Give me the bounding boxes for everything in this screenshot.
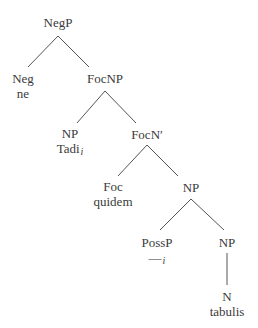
node-word: tabulis xyxy=(210,304,245,319)
coindex: i xyxy=(163,255,166,266)
edge-np-np xyxy=(191,199,224,230)
edge-focnp-focnbar xyxy=(105,91,136,123)
node-label: FocN′ xyxy=(131,127,163,142)
edge-focnbar-np xyxy=(147,145,178,176)
edge-negp-focnp xyxy=(58,36,89,67)
node-negp: NegP xyxy=(44,15,73,30)
node-label: NP xyxy=(219,235,236,250)
node-possp: PossP —i xyxy=(141,235,172,268)
node-label: Foc xyxy=(94,179,133,194)
node-label: PossP xyxy=(141,235,172,250)
node-foc: Foc quidem xyxy=(94,179,133,209)
node-label: Neg xyxy=(12,71,34,86)
node-label: N xyxy=(210,289,245,304)
node-np-subject: NP Tadii xyxy=(57,126,84,159)
node-np-inner: NP xyxy=(219,235,236,250)
node-label: NegP xyxy=(44,15,73,30)
node-neg: Neg ne xyxy=(12,71,34,101)
node-label: NP xyxy=(183,180,200,195)
node-n: N tabulis xyxy=(210,289,245,319)
node-word: —i xyxy=(141,250,172,268)
node-np-object: NP xyxy=(183,180,200,195)
edge-np-possp xyxy=(160,199,191,230)
node-word: Tadii xyxy=(57,141,84,159)
node-word: ne xyxy=(12,86,34,101)
node-label: FocNP xyxy=(87,71,123,86)
edge-focnbar-foc xyxy=(118,145,147,176)
edge-negp-neg xyxy=(28,36,58,67)
node-word: quidem xyxy=(94,194,133,209)
node-focnbar: FocN′ xyxy=(131,127,163,142)
tree-edges xyxy=(0,0,258,328)
coindex: i xyxy=(81,146,84,157)
node-label: NP xyxy=(57,126,84,141)
node-focnp: FocNP xyxy=(87,71,123,86)
edge-focnp-np xyxy=(77,91,105,123)
